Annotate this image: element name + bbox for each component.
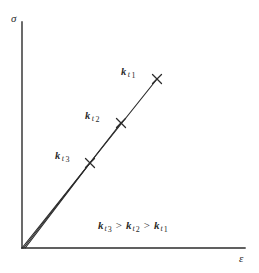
- curve-line-kt3: [25, 163, 90, 248]
- curve-label-kt2: kt2: [85, 110, 99, 124]
- inequality-term-1-sub-n: 3: [107, 225, 112, 234]
- curve-label-kt1: kt1: [121, 66, 135, 80]
- curve-label-kt3: kt3: [55, 150, 69, 164]
- marker-kt1: [153, 75, 162, 84]
- marker-kt3: [86, 159, 95, 168]
- inequality-operator-1: >: [112, 219, 126, 231]
- curve-label-kt3-sub-n: 3: [64, 155, 70, 164]
- stress-strain-figure: σ ε kt1 kt2 kt3 kt3>kt2>kt1: [0, 0, 259, 273]
- axis-group: [22, 22, 245, 248]
- curve-label-kt1-sub-n: 1: [130, 71, 136, 80]
- inequality-annotation: kt3>kt2>kt1: [98, 219, 168, 234]
- inequality-term-1-base: k: [98, 219, 104, 231]
- inequality-term-3-sub-n: 1: [163, 225, 168, 234]
- inequality-term-2-sub-n: 2: [135, 225, 140, 234]
- inequality-operator-2: >: [140, 219, 154, 231]
- marker-kt2: [117, 119, 126, 128]
- curve-label-kt2-sub-n: 2: [94, 115, 100, 124]
- x-axis-label: ε: [239, 252, 243, 264]
- y-axis-label: σ: [11, 12, 16, 24]
